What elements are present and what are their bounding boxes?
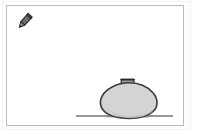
canvas-surface[interactable] bbox=[7, 6, 183, 125]
pen-tool-glyph bbox=[15, 12, 37, 34]
pen-tool-icon[interactable] bbox=[15, 12, 37, 34]
vase-body bbox=[100, 83, 157, 119]
drawing-canvas[interactable] bbox=[6, 5, 184, 126]
app-window bbox=[0, 0, 197, 134]
